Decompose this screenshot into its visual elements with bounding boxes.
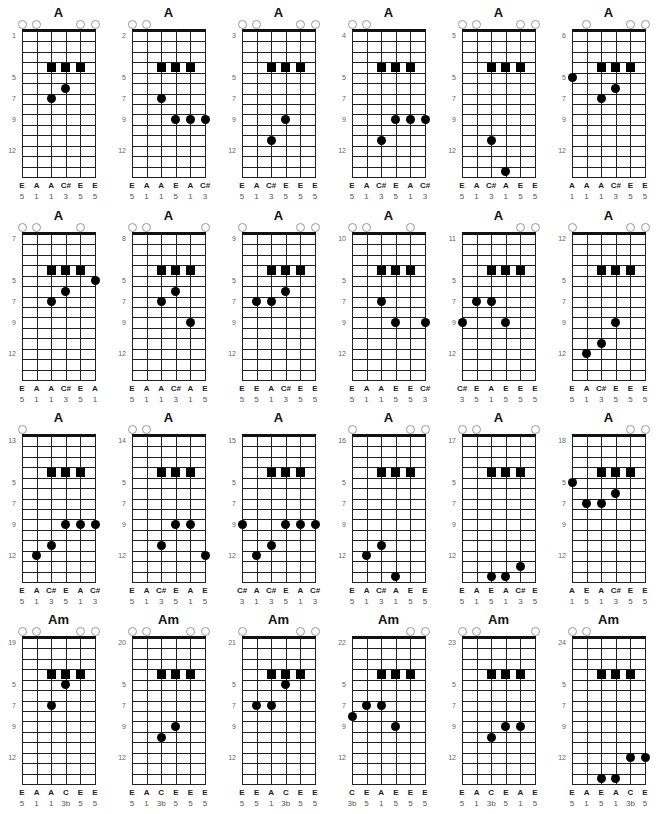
chord-chart: A1357912E5A1C#3E5A1C#3	[0, 405, 110, 608]
chord-chart: A357912E5A1C#3E5E5E5	[220, 0, 330, 203]
fret-line	[572, 276, 646, 277]
fretboard-grid	[462, 234, 535, 380]
string-note-label: A	[579, 788, 595, 797]
root-square-marker-icon	[186, 670, 195, 679]
open-string-icon	[531, 223, 540, 232]
root-square-marker-icon	[516, 468, 525, 477]
start-fret-label: 15	[222, 437, 236, 444]
string-interval-label: 5	[512, 395, 528, 404]
fret-number-label: 7	[552, 298, 566, 305]
chord-chart: Am2057912E5A1C3bE5E5E5	[110, 607, 220, 810]
fret-number-label: 9	[222, 319, 236, 326]
string-interval-label: 5	[388, 192, 404, 201]
string-line	[271, 31, 272, 177]
finger-dot-marker-icon	[201, 551, 210, 560]
open-string-icon	[472, 627, 481, 636]
string-interval-label: 1	[292, 597, 308, 606]
fret-line	[462, 94, 536, 95]
fret-number-label: 12	[332, 552, 346, 559]
fret-line	[572, 478, 646, 479]
finger-dot-marker-icon	[377, 701, 386, 710]
fretboard-grid	[352, 638, 425, 784]
fret-line	[22, 380, 96, 381]
chord-title: A	[352, 410, 425, 425]
fret-line	[132, 742, 206, 743]
string-line	[66, 436, 67, 582]
fret-line	[242, 317, 316, 318]
string-note-label: C	[278, 788, 294, 797]
open-string-icon	[516, 223, 525, 232]
chord-chart: A1757912E5A1E5A1C#3E5	[440, 405, 550, 608]
string-interval-label: 3	[307, 597, 323, 606]
chord-chart: Am2357912E5A1C3bE5A1E5	[440, 607, 550, 810]
fret-line	[242, 690, 316, 691]
fret-line	[132, 763, 206, 764]
finger-dot-marker-icon	[611, 318, 620, 327]
fret-line	[352, 328, 426, 329]
fret-number-label: 7	[332, 298, 346, 305]
string-line	[506, 638, 507, 784]
finger-dot-marker-icon	[61, 84, 70, 93]
fret-line	[132, 380, 206, 381]
fret-line	[572, 265, 646, 266]
fret-number-label: 5	[2, 479, 16, 486]
finger-dot-marker-icon	[252, 701, 261, 710]
fret-number-label: 9	[112, 521, 126, 528]
chord-title: A	[572, 208, 645, 223]
string-line	[257, 234, 258, 380]
fret-line	[132, 114, 206, 115]
fret-line	[22, 763, 96, 764]
string-line	[271, 234, 272, 380]
string-interval-label: 5	[527, 799, 543, 808]
fret-line	[242, 276, 316, 277]
fret-line	[352, 265, 426, 266]
fret-line	[242, 763, 316, 764]
fret-number-label: 7	[222, 95, 236, 102]
fret-line	[22, 711, 96, 712]
fret-line	[462, 509, 536, 510]
open-string-icon	[296, 223, 305, 232]
string-interval-label: 3	[168, 395, 184, 404]
fret-line	[22, 572, 96, 573]
fretboard-grid	[572, 234, 645, 380]
start-fret-label: 22	[332, 639, 346, 646]
string-note-label: E	[249, 788, 265, 797]
fret-line	[462, 52, 536, 53]
nut	[462, 434, 536, 437]
finger-dot-marker-icon	[362, 551, 371, 560]
string-interval-label: 5	[278, 192, 294, 201]
fretboard-grid	[352, 31, 425, 177]
fret-line	[462, 467, 536, 468]
string-interval-label: 5	[344, 395, 360, 404]
fret-number-label: 5	[222, 681, 236, 688]
string-note-label: E	[292, 788, 308, 797]
string-interval-label: 3b	[622, 799, 638, 808]
fret-line	[572, 711, 646, 712]
fret-line	[572, 488, 646, 489]
finger-dot-marker-icon	[171, 287, 180, 296]
fret-line	[462, 349, 536, 350]
string-interval-label: 3	[234, 597, 250, 606]
string-interval-label: 5	[527, 192, 543, 201]
root-square-marker-icon	[516, 670, 525, 679]
open-string-icon	[348, 223, 357, 232]
fret-number-label: 12	[222, 552, 236, 559]
string-note-label: E	[344, 181, 360, 190]
fret-number-label: 7	[442, 298, 456, 305]
fret-line	[242, 125, 316, 126]
string-note-label: E	[512, 384, 528, 393]
fret-line	[242, 156, 316, 157]
string-line	[587, 31, 588, 177]
fret-line	[462, 276, 536, 277]
string-note-label: C#	[234, 586, 250, 595]
fret-line	[22, 457, 96, 458]
string-interval-label: 5	[14, 597, 30, 606]
fret-number-label: 7	[332, 95, 346, 102]
fret-line	[462, 519, 536, 520]
chord-title: A	[352, 208, 425, 223]
string-interval-label: 5	[197, 597, 213, 606]
chord-chart: A1457912E5A1C#3E5A1E5	[110, 405, 220, 608]
fret-line	[242, 519, 316, 520]
fret-line	[352, 784, 426, 785]
fret-number-label: 12	[222, 147, 236, 154]
